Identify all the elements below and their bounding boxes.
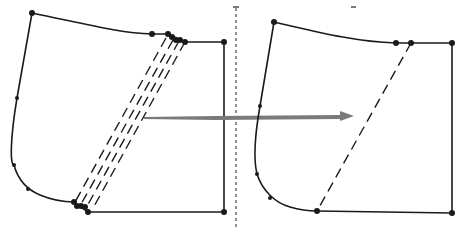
left-top-curve [32, 13, 168, 34]
left-points [12, 10, 227, 215]
right-top-curve [274, 22, 452, 43]
left-slash-lines [74, 38, 185, 210]
left-side-curve [11, 13, 88, 212]
transform-arrow [144, 111, 354, 121]
diagram-canvas [0, 0, 460, 234]
right-slash-line [317, 43, 411, 211]
left-pattern [11, 13, 224, 212]
right-bottom-edge [317, 211, 452, 213]
diagram-svg [0, 0, 460, 234]
